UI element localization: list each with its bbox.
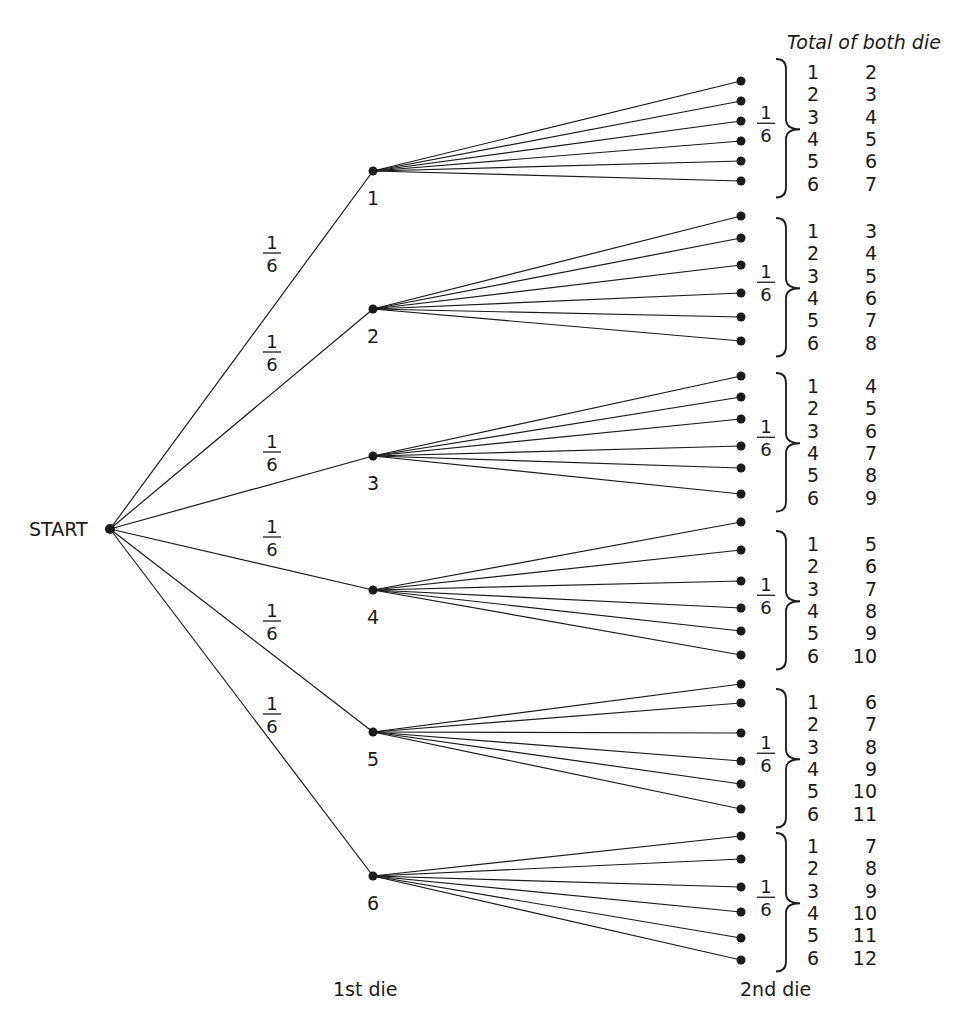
total-value: 5: [865, 265, 877, 287]
second-die-node-4-2: [737, 546, 746, 555]
second-die-branch-5-2: [373, 703, 741, 732]
second-die-node-2-2: [737, 234, 746, 243]
second-die-node-1-5: [737, 157, 746, 166]
second-die-branch-2-3: [373, 265, 741, 309]
fraction-numerator: 1: [266, 693, 277, 714]
first-branch-probability-4: 16: [263, 516, 281, 560]
second-die-value: 2: [807, 713, 819, 735]
curly-brace-4: [776, 531, 800, 670]
fraction-denominator: 6: [760, 899, 771, 920]
fraction-numerator: 1: [266, 331, 277, 352]
second-die-value: 1: [807, 61, 819, 83]
second-die-value: 1: [807, 375, 819, 397]
total-value: 8: [865, 332, 877, 354]
first-branch-probability-1: 16: [263, 232, 281, 276]
second-die-branch-4-5: [373, 590, 741, 631]
second-die-value: 3: [807, 106, 819, 128]
total-value: 6: [865, 150, 877, 172]
second-die-value: 6: [807, 645, 819, 667]
first-branch-probability-6: 16: [263, 693, 281, 737]
start-node: [105, 524, 115, 534]
second-die-node-1-4: [737, 137, 746, 146]
total-value: 4: [865, 106, 877, 128]
second-die-node-6-2: [737, 855, 746, 864]
total-value: 7: [865, 309, 877, 331]
first-die-value-2: 2: [367, 325, 379, 347]
second-die-branch-6-2: [373, 859, 741, 876]
second-die-node-2-5: [737, 313, 746, 322]
second-die-branch-5-6: [373, 732, 741, 809]
second-die-value: 6: [807, 947, 819, 969]
second-die-node-2-1: [737, 212, 746, 221]
second-die-branch-4-6: [373, 590, 741, 655]
fraction-denominator: 6: [266, 454, 277, 475]
first-die-branch-2: [110, 309, 373, 529]
first-die-node-2: [369, 305, 378, 314]
second-branch-probability-6: 16: [757, 876, 775, 920]
second-die-branch-5-4: [373, 732, 741, 761]
branches-layer: [110, 81, 741, 960]
total-value: 8: [865, 600, 877, 622]
fraction-denominator: 6: [760, 439, 771, 460]
totals-column-title: Total of both die: [787, 31, 941, 53]
fraction-denominator: 6: [266, 716, 277, 737]
total-value: 11: [853, 803, 877, 825]
fraction-denominator: 6: [266, 354, 277, 375]
total-value: 11: [853, 924, 877, 946]
curly-brace-5: [776, 689, 800, 828]
second-die-node-6-4: [737, 908, 746, 917]
nodes-layer: [105, 77, 746, 965]
second-die-value: 6: [807, 332, 819, 354]
second-die-node-3-6: [737, 490, 746, 499]
fraction-numerator: 1: [760, 102, 771, 123]
second-die-node-1-2: [737, 97, 746, 106]
second-die-value: 2: [807, 857, 819, 879]
second-die-node-5-4: [737, 757, 746, 766]
second-branch-probability-3: 16: [757, 416, 775, 460]
second-die-branch-2-2: [373, 238, 741, 309]
second-die-value: 4: [807, 758, 819, 780]
fraction-denominator: 6: [760, 755, 771, 776]
total-value: 5: [865, 128, 877, 150]
second-die-value: 4: [807, 902, 819, 924]
second-die-node-4-1: [737, 518, 746, 527]
fraction-denominator: 6: [760, 125, 771, 146]
fraction-numerator: 1: [760, 876, 771, 897]
total-value: 6: [865, 555, 877, 577]
total-value: 8: [865, 736, 877, 758]
fraction-numerator: 1: [266, 431, 277, 452]
second-die-node-6-3: [737, 883, 746, 892]
second-die-value: 2: [807, 397, 819, 419]
second-die-value: 3: [807, 578, 819, 600]
second-die-branch-1-6: [373, 171, 741, 181]
fraction-numerator: 1: [266, 232, 277, 253]
fraction-denominator: 6: [266, 623, 277, 644]
total-value: 3: [865, 83, 877, 105]
total-value: 5: [865, 397, 877, 419]
second-die-node-4-5: [737, 627, 746, 636]
second-die-value: 5: [807, 309, 819, 331]
total-value: 6: [865, 420, 877, 442]
second-die-node-5-5: [737, 780, 746, 789]
second-die-value: 5: [807, 780, 819, 802]
total-value: 7: [865, 442, 877, 464]
second-die-branch-5-3: [373, 732, 741, 733]
second-die-value: 4: [807, 600, 819, 622]
total-value: 7: [865, 835, 877, 857]
fraction-denominator: 6: [760, 597, 771, 618]
fraction-denominator: 6: [266, 255, 277, 276]
second-die-branch-2-5: [373, 309, 741, 317]
second-die-value: 3: [807, 420, 819, 442]
second-branch-probability-4: 16: [757, 574, 775, 618]
total-value: 10: [853, 645, 877, 667]
second-die-value: 6: [807, 173, 819, 195]
total-value: 7: [865, 173, 877, 195]
second-die-value: 2: [807, 83, 819, 105]
fraction-numerator: 1: [760, 574, 771, 595]
first-die-value-4: 4: [367, 606, 379, 628]
first-branch-probability-3: 16: [263, 431, 281, 475]
second-die-value: 2: [807, 555, 819, 577]
first-die-value-6: 6: [367, 892, 379, 914]
total-value: 6: [865, 287, 877, 309]
second-die-value: 3: [807, 736, 819, 758]
